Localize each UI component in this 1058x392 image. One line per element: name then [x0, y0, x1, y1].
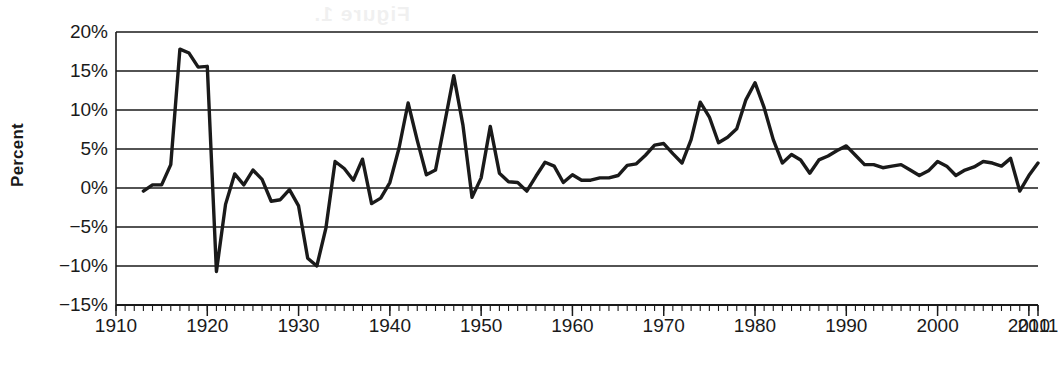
- gridline-group: [116, 32, 1038, 305]
- inflation-series-line: [143, 49, 1038, 271]
- x-axis-major-tick-group: [116, 305, 1038, 316]
